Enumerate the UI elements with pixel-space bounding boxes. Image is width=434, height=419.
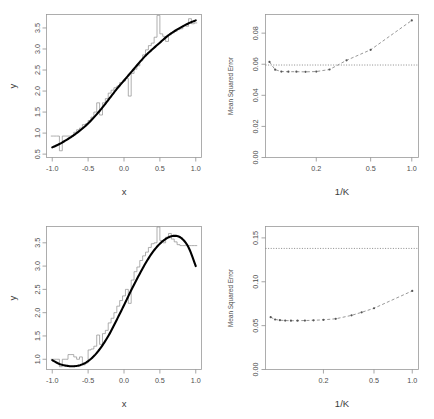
top-left-plot-svg: -1.0-0.50.00.51.00.51.01.52.02.53.03.5 x… <box>0 0 217 209</box>
svg-text:3.0: 3.0 <box>33 261 42 271</box>
top-right-ticks <box>262 33 412 161</box>
plot-frame <box>47 227 202 370</box>
svg-text:0.08: 0.08 <box>251 26 260 40</box>
bottom-right-data-points <box>270 290 414 322</box>
svg-text:0.2: 0.2 <box>318 376 328 385</box>
svg-text:-1.0: -1.0 <box>46 164 58 173</box>
svg-text:1.0: 1.0 <box>33 128 42 138</box>
svg-text:0.5: 0.5 <box>369 376 379 385</box>
svg-text:2.0: 2.0 <box>33 86 42 96</box>
bottom-right-plot-svg: 0.20.51.00.000.050.100.15 1/K Mean Squar… <box>217 209 434 419</box>
svg-text:0.10: 0.10 <box>251 275 260 289</box>
svg-text:0.2: 0.2 <box>311 164 321 173</box>
bottom-left-true-curve <box>52 236 196 366</box>
svg-text:3.5: 3.5 <box>33 238 42 248</box>
top-left-tick-labels: -1.0-0.50.00.51.00.51.01.52.02.53.03.5 <box>33 23 200 173</box>
panel-top-left: -1.0-0.50.00.51.00.51.01.52.02.53.03.5 x… <box>0 0 217 209</box>
bottom-left-xlabel: x <box>122 398 127 409</box>
svg-text:1.0: 1.0 <box>407 164 417 173</box>
plot-frame <box>266 15 419 158</box>
svg-text:1.5: 1.5 <box>33 107 42 117</box>
bottom-left-step-curve <box>51 227 197 367</box>
svg-text:-0.5: -0.5 <box>82 376 94 385</box>
svg-text:0.5: 0.5 <box>366 164 376 173</box>
svg-text:0.5: 0.5 <box>33 149 42 159</box>
svg-text:1.0: 1.0 <box>33 354 42 364</box>
bottom-right-mse-curve <box>271 291 413 321</box>
bottom-left-ticks <box>43 243 196 374</box>
top-right-mse-curve <box>269 20 411 71</box>
bottom-right-xlabel: 1/K <box>335 398 350 409</box>
top-right-tick-labels: 0.20.51.00.000.020.040.060.08 <box>251 26 416 172</box>
top-right-plot-svg: 0.20.51.00.000.020.040.060.08 1/K Mean S… <box>217 0 434 209</box>
bottom-right-ylabel: Mean Squared Error <box>227 268 235 327</box>
panel-bottom-right: 0.20.51.00.000.050.100.15 1/K Mean Squar… <box>217 209 434 418</box>
top-left-step-curve <box>51 15 197 150</box>
plot-frame <box>266 227 419 370</box>
bottom-left-ylabel: y <box>7 295 18 300</box>
top-right-xlabel: 1/K <box>335 186 350 197</box>
svg-text:3.5: 3.5 <box>33 23 42 33</box>
svg-text:0.00: 0.00 <box>251 151 260 165</box>
svg-text:2.5: 2.5 <box>33 65 42 75</box>
top-right-ylabel: Mean Squared Error <box>227 56 235 115</box>
svg-text:0.02: 0.02 <box>251 119 260 133</box>
svg-text:0.04: 0.04 <box>251 88 260 102</box>
svg-text:3.0: 3.0 <box>33 44 42 54</box>
panel-top-right: 0.20.51.00.000.020.040.060.08 1/K Mean S… <box>217 0 434 209</box>
svg-text:-1.0: -1.0 <box>46 376 58 385</box>
svg-text:0.0: 0.0 <box>119 164 129 173</box>
svg-text:0.00: 0.00 <box>251 363 260 377</box>
svg-text:2.5: 2.5 <box>33 284 42 294</box>
svg-text:0.5: 0.5 <box>155 164 165 173</box>
svg-text:1.0: 1.0 <box>407 376 417 385</box>
bottom-right-tick-labels: 0.20.51.00.000.050.100.15 <box>251 231 417 385</box>
bottom-right-ticks <box>262 238 413 374</box>
svg-text:1.0: 1.0 <box>191 376 201 385</box>
svg-text:0.0: 0.0 <box>119 376 129 385</box>
svg-text:0.06: 0.06 <box>251 57 260 71</box>
svg-text:0.15: 0.15 <box>251 231 260 245</box>
top-left-xlabel: x <box>122 186 127 197</box>
svg-text:-0.5: -0.5 <box>82 164 94 173</box>
svg-text:1.0: 1.0 <box>191 164 201 173</box>
svg-text:2.0: 2.0 <box>33 308 42 318</box>
svg-text:0.05: 0.05 <box>251 319 260 333</box>
top-left-ylabel: y <box>7 83 18 88</box>
figure-canvas: -1.0-0.50.00.51.00.51.01.52.02.53.03.5 x… <box>0 0 434 419</box>
bottom-left-plot-svg: -1.0-0.50.00.51.01.01.52.02.53.03.5 x y <box>0 209 217 419</box>
top-left-true-curve <box>52 20 196 147</box>
svg-text:1.5: 1.5 <box>33 331 42 341</box>
svg-text:0.5: 0.5 <box>155 376 165 385</box>
panel-bottom-left: -1.0-0.50.00.51.01.01.52.02.53.03.5 x y <box>0 209 217 418</box>
